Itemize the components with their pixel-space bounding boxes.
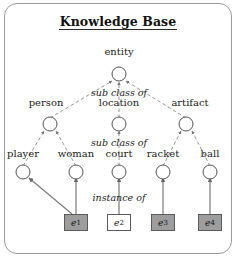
node-label-ball: ball (201, 149, 220, 159)
node-label-court: court (106, 149, 133, 159)
node-label-player: player (7, 149, 39, 159)
edge-label-sub-class-of-upper: sub class of (91, 88, 147, 98)
node-label-artifact: artifact (171, 98, 208, 108)
edge-label-sub-class-of-lower: sub class of (91, 138, 147, 148)
instance-box-e4-subscript: 4 (210, 219, 214, 227)
knowledge-base-figure: Knowledge Base (0, 0, 237, 260)
node-label-racket: racket (147, 149, 179, 159)
node-label-location: location (99, 98, 139, 108)
instance-box-e1[interactable]: e1 (64, 214, 88, 231)
node-circle-ball[interactable] (203, 165, 217, 179)
instance-box-e4[interactable]: e4 (198, 214, 222, 231)
node-circle-entity[interactable] (112, 67, 126, 81)
node-label-entity: entity (104, 47, 133, 57)
instance-box-e3[interactable]: e3 (151, 214, 175, 231)
instance-box-e2[interactable]: e2 (107, 214, 131, 231)
node-circle-player[interactable] (16, 165, 30, 179)
instance-box-e3-subscript: 3 (163, 219, 167, 227)
node-circle-artifact[interactable] (179, 117, 193, 131)
edge-label-instance-of: instance of (93, 193, 146, 203)
instance-box-e1-subscript: 1 (76, 219, 80, 227)
node-circle-racket[interactable] (156, 165, 170, 179)
class-nodes (16, 67, 217, 179)
node-label-woman: woman (58, 149, 94, 159)
instance-box-e2-subscript: 2 (119, 219, 123, 227)
node-label-person: person (29, 98, 64, 108)
node-circle-woman[interactable] (69, 165, 83, 179)
edge-e1-player (29, 178, 72, 214)
node-circle-court[interactable] (112, 165, 126, 179)
node-circle-person[interactable] (43, 117, 57, 131)
node-circle-location[interactable] (112, 117, 126, 131)
